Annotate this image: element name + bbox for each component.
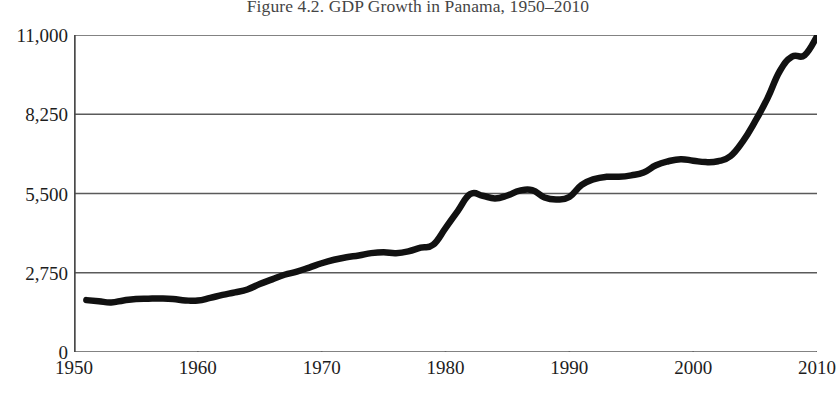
- x-axis-label-2010: 2010: [772, 358, 836, 377]
- x-axis-label-2000: 2000: [648, 358, 738, 377]
- x-axis-label-1980: 1980: [401, 358, 491, 377]
- figure-container: Figure 4.2. GDP Growth in Panama, 1950–2…: [0, 0, 836, 393]
- x-axis-label-1990: 1990: [524, 358, 614, 377]
- x-axis-label-1970: 1970: [277, 358, 367, 377]
- x-axis-label-1960: 1960: [153, 358, 243, 377]
- x-axis-tick-labels: 1950196019701980199020002010: [0, 0, 836, 393]
- x-axis-label-1950: 1950: [29, 358, 119, 377]
